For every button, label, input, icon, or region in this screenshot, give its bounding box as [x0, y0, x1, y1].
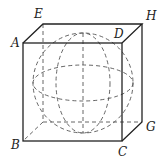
cube-sphere-diagram: A E D H B C G [0, 0, 167, 159]
label-A: A [10, 36, 20, 50]
label-G: G [146, 120, 156, 134]
top-face-edges [23, 24, 142, 43]
vertex-labels: A E D H B C G [10, 7, 157, 159]
inscribed-sphere [33, 33, 133, 133]
edge-F-B [23, 122, 43, 141]
right-face-edges [122, 24, 142, 141]
label-H: H [145, 9, 157, 23]
label-C: C [118, 145, 127, 159]
label-E: E [33, 7, 43, 21]
label-B: B [10, 138, 20, 152]
label-D: D [113, 27, 124, 41]
